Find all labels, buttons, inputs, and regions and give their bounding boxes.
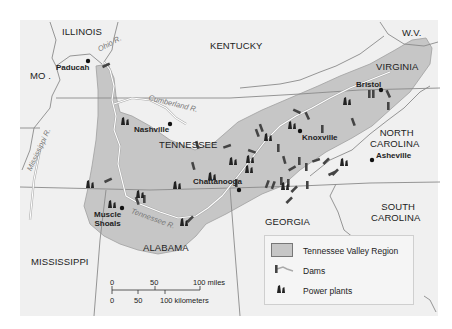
scale-miles-100: 100 miles [193,278,225,287]
label-south-carolina-line2: CAROLINA [371,213,420,223]
legend-label-region: Tennessee Valley Region [303,246,398,256]
scale-km-100: 100 kilometers [160,296,209,305]
legend-label-power-plants: Power plants [303,286,352,296]
label-wv: W.V. [402,28,422,38]
label-knoxville: Knoxville [302,134,338,142]
label-north-carolina: NORTH CAROLINA [374,128,419,148]
legend-item-power-plants [271,281,295,297]
label-tennessee: TENNESSEE [159,140,217,150]
legend: Tennessee Valley Region Dams Power plant… [264,235,414,305]
power-plant-icon [271,283,295,295]
label-south-carolina: SOUTH CAROLINA [371,202,420,222]
label-kentucky: KENTUCKY [210,41,263,51]
label-asheville: Asheville [376,152,411,160]
label-virginia: VIRGINIA [376,62,419,72]
label-mo: MO . [30,71,51,81]
label-chattanooga: Chattanooga [193,178,242,186]
label-muscle-shoals-line2: Shoals [94,220,121,228]
label-alabama: ALABAMA [143,243,189,253]
label-muscle-shoals-line1: Muscle [94,211,121,219]
legend-item-region [271,242,293,258]
legend-label-dams: Dams [303,266,325,276]
label-mississippi: MISSISSIPPI [31,257,89,267]
label-paducah: Paducah [56,64,89,72]
legend-item-dams [271,261,295,277]
dam-icon [271,263,295,275]
scale-km-50: 50 [134,296,142,305]
region-swatch-icon [271,243,293,257]
label-south-carolina-line1: SOUTH [376,202,420,212]
label-nashville: Nashville [134,126,169,134]
label-illinois: ILLINOIS [62,27,102,37]
scale-km-0: 0 [110,296,114,305]
scale-miles-50: 50 [150,278,158,287]
label-georgia: GEORGIA [265,217,310,227]
label-muscle-shoals: Muscle Shoals [94,211,121,228]
label-north-carolina-line1: NORTH [374,128,419,138]
scale-miles-0: 0 [110,278,114,287]
label-north-carolina-line2: CAROLINA [370,139,419,149]
label-bristol: Bristol [356,81,381,89]
